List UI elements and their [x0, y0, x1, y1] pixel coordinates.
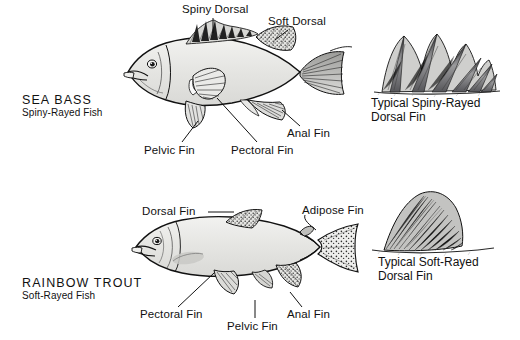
callout-soft-dorsal: Soft Dorsal — [268, 15, 326, 28]
caption-spiny-rayed-dorsal-fin: Typical Spiny-Rayed Dorsal Fin — [371, 97, 480, 124]
diagram-canvas: SEA BASS Spiny-Rayed Fish Spiny Dorsal S… — [0, 0, 520, 340]
species-subtitle-rainbow-trout: Soft-Rayed Fish — [22, 290, 142, 301]
species-name-rainbow-trout: RAINBOW TROUT — [22, 276, 142, 290]
species-label-sea-bass: SEA BASS Spiny-Rayed Fish — [22, 93, 103, 118]
rainbow-trout-pelvic-fin — [252, 270, 273, 288]
soft-rayed-dorsal-fin-inset — [372, 192, 494, 256]
caption-soft-line1: Typical Soft-Rayed — [378, 256, 479, 270]
rainbow-trout-caudal-fin — [318, 224, 358, 272]
caption-soft-line2: Dorsal Fin — [378, 270, 479, 284]
callout-sea-bass-pectoral-fin: Pectoral Fin — [231, 144, 294, 157]
sea-bass-spiny-dorsal-fin — [186, 20, 258, 44]
caption-spiny-line2: Dorsal Fin — [371, 111, 480, 125]
sea-bass-anal-fin — [240, 100, 285, 120]
rainbow-trout-adipose-fin — [300, 226, 314, 236]
leader-sb-anal — [282, 110, 300, 126]
callout-trout-dorsal-fin: Dorsal Fin — [142, 205, 195, 218]
leader-trout-anal — [290, 292, 302, 307]
species-subtitle-sea-bass: Spiny-Rayed Fish — [22, 107, 103, 118]
callout-sea-bass-pelvic-fin: Pelvic Fin — [144, 144, 195, 157]
sea-bass-soft-dorsal-fin — [256, 26, 296, 50]
caption-soft-rayed-dorsal-fin: Typical Soft-Rayed Dorsal Fin — [378, 256, 479, 283]
caption-spiny-line1: Typical Spiny-Rayed — [371, 97, 480, 111]
spiny-rayed-dorsal-fin-inset — [374, 34, 500, 97]
sea-bass-caudal-fin — [300, 47, 352, 95]
callout-spiny-dorsal: Spiny Dorsal — [182, 3, 248, 16]
species-label-rainbow-trout: RAINBOW TROUT Soft-Rayed Fish — [22, 276, 142, 301]
callout-sea-bass-anal-fin: Anal Fin — [287, 127, 330, 140]
rainbow-trout-pectoral-fin — [214, 270, 239, 294]
callout-trout-adipose-fin: Adipose Fin — [302, 204, 364, 217]
callout-trout-pectoral-fin: Pectoral Fin — [140, 308, 203, 321]
sea-bass-illustration — [124, 20, 352, 128]
rainbow-trout-illustration — [132, 210, 358, 295]
callout-trout-anal-fin: Anal Fin — [287, 308, 330, 321]
leader-trout-pectoral — [178, 273, 214, 307]
rainbow-trout-anal-fin — [276, 263, 301, 287]
callout-trout-pelvic-fin: Pelvic Fin — [227, 320, 278, 333]
species-name-sea-bass: SEA BASS — [22, 93, 103, 107]
